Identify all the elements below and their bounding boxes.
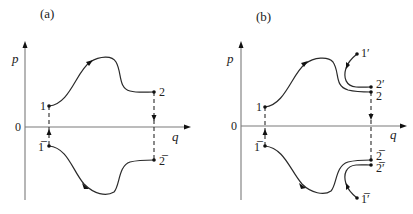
trajectory-1-to-2 (265, 58, 371, 107)
label-1bar: 1̅ (38, 140, 48, 154)
q-axis-label: q (390, 127, 397, 142)
label-1prime: 1′ (361, 46, 370, 60)
up-arrow-icon (263, 129, 268, 135)
point-2prime (369, 85, 373, 89)
label-1: 1 (256, 100, 262, 114)
panel-b: (b) p q 0 (226, 9, 407, 206)
origin-label: 0 (231, 119, 237, 133)
p-axis-arrow-icon (239, 41, 244, 48)
point-2 (152, 90, 156, 94)
label-2bar: 2̅ (159, 154, 169, 168)
q-axis-arrow-icon (400, 124, 407, 129)
panel-a-title: (a) (40, 6, 54, 21)
down-arrow-icon (152, 115, 157, 121)
label-2: 2 (376, 89, 382, 103)
point-1bar (263, 144, 267, 148)
q-axis-arrow-icon (184, 125, 191, 130)
p-axis-label: p (11, 51, 19, 66)
point-1barprime (355, 196, 359, 200)
up-arrow-icon (47, 129, 52, 135)
trajectory-1bar-to-2bar (49, 146, 154, 194)
point-2barprime (369, 163, 373, 167)
label-2prime: 2′ (376, 77, 385, 91)
q-axis-label: q (172, 129, 179, 144)
point-2bar (152, 158, 156, 162)
p-axis-label: p (226, 51, 234, 66)
point-1bar (47, 144, 51, 148)
point-1 (47, 104, 51, 108)
trajectory-1-to-2 (49, 57, 154, 106)
p-axis-arrow-icon (23, 41, 28, 48)
label-2barprime: 2̅′ (376, 161, 386, 175)
origin-label: 0 (15, 120, 21, 134)
point-1prime (355, 52, 359, 56)
direction-arrow-icon (82, 183, 89, 189)
label-1barprime: 1̅′ (361, 192, 371, 206)
point-2bar (369, 158, 373, 162)
phase-space-diagram: (a) p q 0 1 2 (0, 0, 413, 214)
point-1 (263, 105, 267, 109)
panel-a: (a) p q 0 1 2 (11, 6, 191, 200)
label-2: 2 (159, 85, 165, 99)
label-1: 1 (40, 99, 46, 113)
down-arrow-icon (369, 114, 374, 120)
panel-b-title: (b) (256, 9, 271, 24)
label-1bar: 1̅ (254, 140, 264, 154)
trajectory-1bar-to-2bar (265, 146, 371, 193)
point-2 (369, 90, 373, 94)
